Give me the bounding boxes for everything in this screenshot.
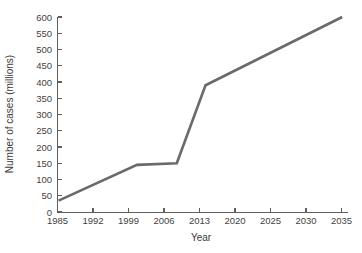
y-tick-label: 500 bbox=[36, 44, 52, 55]
y-tick-label: 550 bbox=[36, 28, 52, 39]
x-axis bbox=[58, 208, 349, 213]
y-tick-label: 350 bbox=[36, 93, 52, 104]
y-tick-label: 200 bbox=[36, 142, 52, 153]
y-tick-label: 400 bbox=[36, 77, 52, 88]
y-axis-tick-labels: 600 550 500 450 400 350 300 250 200 150 … bbox=[36, 12, 52, 218]
x-tick-label: 2035 bbox=[331, 215, 352, 226]
x-tick-label: 1985 bbox=[47, 215, 68, 226]
y-tick-label: 450 bbox=[36, 60, 52, 71]
x-tick-label: 1999 bbox=[118, 215, 139, 226]
x-tick-label: 2006 bbox=[153, 215, 174, 226]
x-axis-tick-labels: 1985 1992 1999 2006 2013 2020 2025 2030 … bbox=[47, 215, 352, 226]
x-tick-label: 2030 bbox=[295, 215, 316, 226]
y-tick-label: 50 bbox=[41, 190, 52, 201]
x-tick-label: 2020 bbox=[224, 215, 245, 226]
y-tick-label: 300 bbox=[36, 109, 52, 120]
y-tick-label: 250 bbox=[36, 125, 52, 136]
x-tick-label: 1992 bbox=[82, 215, 103, 226]
y-tick-label: 150 bbox=[36, 158, 52, 169]
y-axis bbox=[58, 17, 62, 213]
x-axis-title: Year bbox=[191, 232, 212, 243]
x-tick-label: 2013 bbox=[189, 215, 210, 226]
y-axis-title: Number of cases (millions) bbox=[4, 55, 15, 173]
data-series-line bbox=[59, 17, 343, 201]
line-chart: 600 550 500 450 400 350 300 250 200 150 … bbox=[0, 0, 362, 253]
y-tick-label: 600 bbox=[36, 12, 52, 23]
x-tick-label: 2025 bbox=[260, 215, 281, 226]
chart-figure: 600 550 500 450 400 350 300 250 200 150 … bbox=[0, 0, 362, 253]
y-tick-label: 100 bbox=[36, 174, 52, 185]
